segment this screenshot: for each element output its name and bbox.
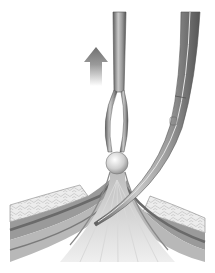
grasping-forceps <box>105 12 128 152</box>
tissue-knob <box>106 152 128 174</box>
surgical-illustration <box>0 0 215 273</box>
up-arrow-icon <box>84 47 108 86</box>
